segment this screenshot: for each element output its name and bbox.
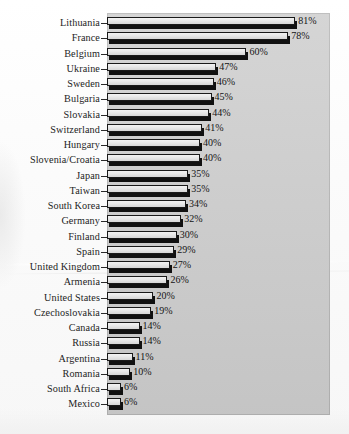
bar: [107, 337, 140, 345]
bar: [107, 322, 140, 330]
bar-group: [107, 215, 185, 228]
bar-value-label: 81%: [298, 14, 316, 27]
bar-value-label: 41%: [205, 121, 223, 134]
bar-row: South Africa6%: [0, 382, 349, 398]
category-label: South Africa: [0, 381, 100, 397]
bar-group: [107, 200, 190, 213]
bar: [107, 261, 170, 269]
bar: [107, 109, 209, 117]
bar-value-label: 30%: [180, 228, 198, 241]
bar: [107, 231, 177, 239]
category-label: Slovakia: [0, 107, 100, 123]
bar-group: [107, 48, 250, 61]
bar-value-label: 26%: [170, 273, 188, 286]
bar-group: [107, 322, 144, 335]
bar: [107, 170, 188, 178]
bar: [107, 78, 214, 86]
bar-row: Slovakia44%: [0, 108, 349, 124]
bar-row: Argentina11%: [0, 352, 349, 368]
bar: [107, 276, 167, 284]
bar-value-label: 34%: [189, 197, 207, 210]
bar-group: [107, 78, 218, 91]
bar: [107, 93, 212, 101]
bar-group: [107, 170, 192, 183]
bar-value-label: 46%: [217, 75, 235, 88]
category-label: Japan: [0, 168, 100, 184]
category-label: France: [0, 30, 100, 46]
bar: [107, 48, 246, 56]
category-label: Russia: [0, 335, 100, 351]
category-label: Ukraine: [0, 61, 100, 77]
category-label: Hungary: [0, 137, 100, 153]
bar: [107, 17, 295, 25]
category-label: Finland: [0, 229, 100, 245]
category-label: Lithuania: [0, 15, 100, 31]
bar-group: [107, 109, 213, 122]
bar-value-label: 6%: [124, 395, 137, 408]
bar-group: [107, 307, 155, 320]
bar-value-label: 47%: [219, 60, 237, 73]
bar-row: Finland30%: [0, 230, 349, 246]
category-label: Canada: [0, 320, 100, 336]
bar-row: United States20%: [0, 291, 349, 307]
bar-value-label: 40%: [203, 151, 221, 164]
bar-value-label: 78%: [291, 29, 309, 42]
category-label: Slovenia/Croatia: [0, 152, 100, 168]
bar-value-label: 14%: [143, 319, 161, 332]
bar-row: Japan35%: [0, 169, 349, 185]
bar-group: [107, 261, 174, 274]
bar-row: Czechoslovakia19%: [0, 306, 349, 322]
category-label: Armenia: [0, 274, 100, 290]
bar-group: [107, 154, 204, 167]
category-label: Switzerland: [0, 122, 100, 138]
bar-group: [107, 185, 192, 198]
bar: [107, 353, 133, 361]
bar-row: Switzerland41%: [0, 123, 349, 139]
horizontal-bar-chart: Lithuania81%France78%Belgium60%Ukraine47…: [0, 0, 349, 434]
bar: [107, 383, 121, 391]
bar-value-label: 19%: [154, 304, 172, 317]
bar-value-label: 32%: [184, 212, 202, 225]
bar-group: [107, 368, 134, 381]
bar-group: [107, 292, 157, 305]
bar-group: [107, 93, 216, 106]
bar: [107, 154, 200, 162]
bar-group: [107, 337, 144, 350]
bar-group: [107, 32, 292, 45]
bar-row: South Korea34%: [0, 199, 349, 215]
category-label: United Kingdom: [0, 259, 100, 275]
bar: [107, 398, 121, 406]
bar-group: [107, 276, 171, 289]
bar-row: France78%: [0, 31, 349, 47]
bar-value-label: 45%: [215, 90, 233, 103]
category-label: Taiwan: [0, 183, 100, 199]
bar-row: Bulgaria45%: [0, 92, 349, 108]
bar: [107, 292, 153, 300]
bar: [107, 32, 288, 40]
bar-row: Germany32%: [0, 214, 349, 230]
bar: [107, 139, 200, 147]
category-label: Sweden: [0, 76, 100, 92]
bar: [107, 63, 216, 71]
bar-group: [107, 231, 181, 244]
bar: [107, 246, 174, 254]
category-label: Czechoslovakia: [0, 305, 100, 321]
bar-group: [107, 383, 125, 396]
bar-group: [107, 139, 204, 152]
bar-value-label: 60%: [249, 45, 267, 58]
category-label: Romania: [0, 366, 100, 382]
bar-value-label: 6%: [124, 380, 137, 393]
category-label: Bulgaria: [0, 91, 100, 107]
bar-group: [107, 124, 206, 137]
bar: [107, 215, 181, 223]
bar-row: Mexico6%: [0, 397, 349, 413]
bar-row: Russia14%: [0, 336, 349, 352]
bar-row: Ukraine47%: [0, 62, 349, 78]
bar-group: [107, 398, 125, 411]
bar: [107, 185, 188, 193]
category-label: Argentina: [0, 351, 100, 367]
bar-value-label: 27%: [173, 258, 191, 271]
bar-group: [107, 353, 137, 366]
category-label: Spain: [0, 244, 100, 260]
category-label: Belgium: [0, 46, 100, 62]
